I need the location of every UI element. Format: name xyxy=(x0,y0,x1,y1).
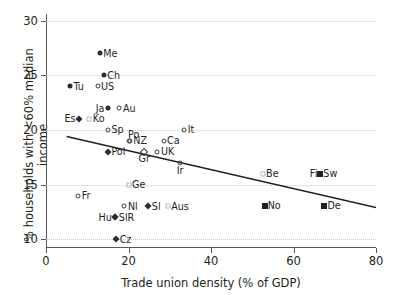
point-label-ca: Ca xyxy=(167,136,180,146)
point-label-tu: Tu xyxy=(73,81,83,91)
point-label-ko: Ko xyxy=(93,114,105,124)
point-label-nz: NZ xyxy=(133,136,147,146)
y-tick-label-25: 25 xyxy=(23,68,38,82)
data-point-pol: Pol xyxy=(105,149,110,154)
y-axis-line xyxy=(46,14,47,248)
data-point-sp: Sp xyxy=(105,127,110,132)
data-point-me: Me xyxy=(97,51,102,56)
gridline-y-20 xyxy=(46,130,376,131)
data-point-tu: Tu xyxy=(67,84,72,89)
point-label-es: Es xyxy=(64,114,75,124)
data-point-nl: Nl xyxy=(122,204,127,209)
marker-circle-filled-icon xyxy=(67,84,72,89)
y-tick-label-15: 15 xyxy=(23,178,38,192)
marker-circle-open-icon xyxy=(76,193,81,198)
data-point-slr: SlR xyxy=(113,215,118,220)
point-label-uk: UK xyxy=(161,147,174,157)
y-tick-25 xyxy=(41,75,46,76)
point-label-it: It xyxy=(188,125,195,135)
data-point-ko: Ko xyxy=(87,116,92,121)
marker-diamond-filled-icon xyxy=(145,203,152,210)
data-point-ge: Ge xyxy=(126,182,131,187)
point-label-me: Me xyxy=(103,49,117,59)
x-tick-40 xyxy=(211,248,212,253)
point-label-nl: Nl xyxy=(128,202,138,212)
data-point-be: Be xyxy=(260,171,265,176)
point-label-aus: Aus xyxy=(171,202,189,212)
point-label-hu: Hu xyxy=(99,213,112,223)
data-point-no: No xyxy=(262,203,268,209)
marker-circle-filled-icon xyxy=(101,73,106,78)
marker-diamond-filled-icon xyxy=(112,214,119,221)
marker-square-open-icon xyxy=(165,204,170,209)
point-label-pol: Pol xyxy=(111,147,125,157)
marker-circle-filled-icon xyxy=(105,106,110,111)
y-tick-10 xyxy=(41,239,46,240)
point-label-ir: Ir xyxy=(177,165,184,175)
gridline-y-10 xyxy=(46,239,376,240)
data-point-de: De xyxy=(321,203,327,209)
marker-circle-open-icon xyxy=(155,149,160,154)
data-point-uk: UK xyxy=(155,149,160,154)
point-label-gr: Gr xyxy=(138,154,149,164)
point-label-ja: Ja xyxy=(96,103,105,113)
data-point-aus: Aus xyxy=(165,204,170,209)
x-tick-label-40: 40 xyxy=(204,254,219,268)
y-tick-label-20: 20 xyxy=(23,123,38,137)
point-label-slr: SlR xyxy=(119,213,134,223)
y-tick-label-30: 30 xyxy=(23,14,38,28)
plot-area: 1015202530 020406080 MeChTuUSJaAuEsKoSpI… xyxy=(46,14,376,248)
marker-circle-open-icon xyxy=(95,84,100,89)
marker-circle-open-icon xyxy=(122,204,127,209)
x-tick-label-20: 20 xyxy=(121,254,136,268)
data-point-es: Es xyxy=(77,116,82,121)
data-point-it: It xyxy=(182,127,187,132)
data-point-fr: Fr xyxy=(76,193,81,198)
marker-circle-open-icon xyxy=(105,127,110,132)
data-point-nz: NZ xyxy=(127,138,132,143)
marker-square-open-icon xyxy=(260,171,265,176)
x-tick-20 xyxy=(129,248,130,253)
point-label-ge: Ge xyxy=(132,180,145,190)
y-tick-15 xyxy=(41,185,46,186)
data-point-ja: Ja xyxy=(105,106,110,111)
y-tick-30 xyxy=(41,21,46,22)
marker-square-open-icon xyxy=(87,116,92,121)
data-point-ch: Ch xyxy=(101,73,106,78)
marker-circle-open-icon xyxy=(182,127,187,132)
gridline-y-30 xyxy=(46,21,376,22)
data-point-us: US xyxy=(95,84,100,89)
marker-diamond-filled-icon xyxy=(113,236,120,243)
y-tick-20 xyxy=(41,130,46,131)
marker-diamond-filled-icon xyxy=(104,148,111,155)
marker-diamond-filled-icon xyxy=(75,115,82,122)
point-label-us: US xyxy=(101,81,114,91)
point-label-be: Be xyxy=(266,169,278,179)
point-label-fr: Fr xyxy=(82,191,91,201)
marker-circle-filled-icon xyxy=(97,51,102,56)
scatter-chart: % households with <60% median income Tra… xyxy=(0,0,394,295)
point-label-no: No xyxy=(268,202,281,212)
marker-circle-open-icon xyxy=(161,138,166,143)
point-label-sl: Sl xyxy=(152,202,161,212)
gridline-y-25 xyxy=(46,75,376,76)
point-label-cz: Cz xyxy=(120,234,132,244)
x-tick-label-60: 60 xyxy=(286,254,301,268)
point-label-de: De xyxy=(327,202,340,212)
data-point-ca: Ca xyxy=(161,138,166,143)
x-axis-title: Trade union density (% of GDP) xyxy=(46,276,376,290)
gridline-y-15 xyxy=(46,185,376,186)
trend-line xyxy=(46,14,376,248)
point-label-sp: Sp xyxy=(111,125,123,135)
data-point-au: Au xyxy=(117,106,122,111)
data-point-sl: Sl xyxy=(146,204,151,209)
marker-circle-open-icon xyxy=(117,106,122,111)
marker-circle-open-icon xyxy=(127,138,132,143)
x-tick-60 xyxy=(294,248,295,253)
data-point-sw: Sw xyxy=(317,171,323,177)
data-point-gr: Gr xyxy=(141,149,147,155)
data-point-ir: Ir xyxy=(178,160,183,165)
point-label-sw: Sw xyxy=(323,169,337,179)
y-tick-label-10: 10 xyxy=(23,232,38,246)
marker-square-open-icon xyxy=(126,182,131,187)
